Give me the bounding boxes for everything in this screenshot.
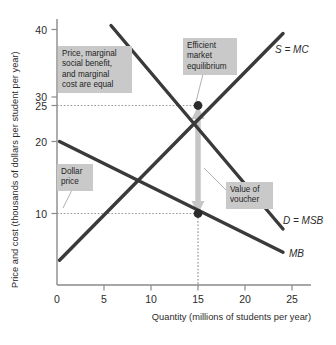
y-tick-label-10: 10 [35,208,47,220]
x-tick-label-20: 20 [239,293,251,305]
economics-supply-demand-chart: 40 30 25 20 10 0 5 10 15 20 25 Price and… [0,0,336,345]
x-tick-label-5: 5 [101,293,107,305]
y-tick-labels: 40 30 25 20 10 [35,24,47,220]
callout-value-of-voucher: Value of voucher [226,182,273,209]
leader-dollar-price [63,190,72,208]
marginal-benefit-curve-label: MB [289,248,304,259]
callout-efficient-market-equilibrium: Efficient market equilibrium [183,38,237,75]
efficient-equilibrium-point [194,101,203,110]
demand-curve-label: D = MSB [283,215,324,226]
y-tick-label-20: 20 [35,136,47,148]
y-tick-label-25: 25 [35,100,47,112]
x-tick-label-15: 15 [192,293,204,305]
callout-price-msb-mc-equal: Price, marginal social benefit, and marg… [58,46,132,93]
x-tick-labels: 0 5 10 15 20 25 [54,293,298,305]
supply-curve-label: S = MC [275,44,309,55]
leader-value-of-voucher [204,168,226,190]
callout-dollar-price: Dollar price [57,164,93,191]
x-tick-label-0: 0 [54,293,60,305]
x-axis-title: Quantity (millions of students per year) [152,312,311,322]
y-tick-label-40: 40 [35,24,47,36]
y-axis-title: Price and cost (thousands of dollars per… [10,51,20,288]
guide-lines [57,106,198,286]
chart-canvas: 40 30 25 20 10 0 5 10 15 20 25 Price and… [0,0,336,345]
dollar-price-point [194,209,203,218]
x-tick-label-10: 10 [145,293,157,305]
leader-equilibrium [196,74,203,102]
x-tick-label-25: 25 [286,293,298,305]
